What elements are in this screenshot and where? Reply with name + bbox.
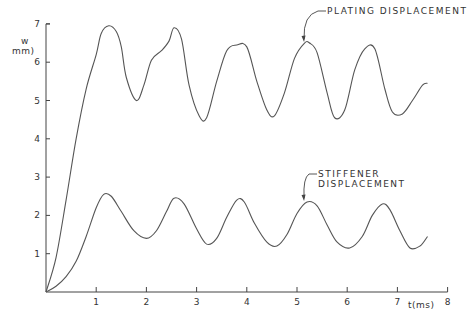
arrowhead-icon bbox=[302, 36, 306, 43]
x-tick-label: 1 bbox=[93, 297, 99, 307]
x-tick-label: 4 bbox=[244, 297, 250, 307]
y-tick-label: 6 bbox=[34, 57, 40, 67]
y-tick-label: 1 bbox=[34, 249, 40, 259]
y-tick-label: 3 bbox=[34, 172, 40, 182]
y-tick-label: 5 bbox=[34, 96, 40, 106]
plating-arrow bbox=[304, 11, 326, 39]
y-tick-label: 2 bbox=[34, 210, 40, 220]
displacement-chart: 123456781234567 bbox=[0, 0, 470, 321]
x-axis-label: t(ms) bbox=[408, 300, 435, 310]
x-tick-label: 2 bbox=[144, 297, 150, 307]
x-tick-label: 5 bbox=[294, 297, 300, 307]
stiffener-arrow bbox=[304, 174, 317, 198]
plating-displacement-line bbox=[46, 26, 428, 292]
annotation-stiffener: STIFFENER DISPLACEMENT bbox=[318, 169, 470, 189]
y-axis-label-unit: mm) bbox=[12, 46, 35, 56]
y-axis-label-w: w bbox=[21, 36, 29, 46]
x-tick-label: 8 bbox=[445, 297, 451, 307]
x-tick-label: 6 bbox=[344, 297, 350, 307]
arrowhead-icon bbox=[302, 194, 306, 201]
y-tick-label: 7 bbox=[34, 19, 40, 29]
x-tick-label: 3 bbox=[194, 297, 200, 307]
axes: 123456781234567 bbox=[34, 19, 450, 307]
stiffener-displacement-line bbox=[46, 193, 428, 292]
annotation-plating: PLATING DISPLACEMENT bbox=[327, 6, 467, 16]
x-tick-label: 7 bbox=[395, 297, 401, 307]
series-lines bbox=[46, 26, 428, 292]
y-tick-label: 4 bbox=[34, 134, 40, 144]
